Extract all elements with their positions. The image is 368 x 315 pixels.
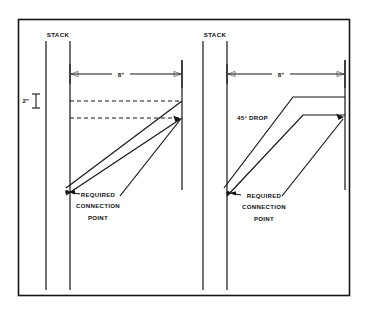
right-run-dimension: 8" [227,60,345,88]
right-callout-line1: REQUIRED [247,192,282,199]
left-callout-line1: REQUIRED [81,191,116,198]
right-callout-line2: CONNECTION [242,203,286,210]
left-callout-line2: CONNECTION [76,202,120,209]
right-pipe-upper-wall [224,97,345,188]
left-callout-text: REQUIRED CONNECTION POINT [76,191,120,221]
left-offset-dimension-label: 2" [22,98,29,104]
right-drop-angle-label: 45° DROP [237,114,268,121]
right-callout-line3: POINT [254,215,274,222]
technical-drawing: STACK 2" 8" [0,0,368,315]
left-callout-line3: POINT [88,214,108,221]
left-run-dimension: 8" [70,60,182,88]
right-pipe-lower-wall [227,115,345,196]
right-pipe-lead-line [282,119,343,196]
left-pipe-lead-line [120,120,180,196]
left-pipe-upper-wall [66,101,182,188]
left-pipe-lower-wall [66,118,182,195]
left-stack-label: STACK [47,31,70,38]
diagram-canvas: STACK 2" 8" [0,0,368,315]
left-view: STACK 2" 8" [22,31,182,290]
right-view: STACK 8" [203,31,345,290]
right-stack-label: STACK [204,31,227,38]
drawing-border [19,20,350,296]
left-offset-dimension: 2" [22,94,40,108]
right-run-dimension-label: 8" [278,72,285,78]
right-callout-text: REQUIRED CONNECTION POINT [242,192,286,222]
left-run-dimension-label: 8" [118,72,125,78]
